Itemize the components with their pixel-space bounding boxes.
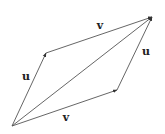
vector-u-left — [12, 53, 46, 126]
label-u-right: u — [142, 46, 150, 57]
vector-parallelogram-diagram — [0, 0, 165, 134]
vector-sum-diagonal — [12, 17, 152, 126]
label-v-top: v — [97, 20, 103, 31]
label-v-bottom: v — [63, 112, 69, 123]
label-u-left: u — [22, 71, 30, 82]
